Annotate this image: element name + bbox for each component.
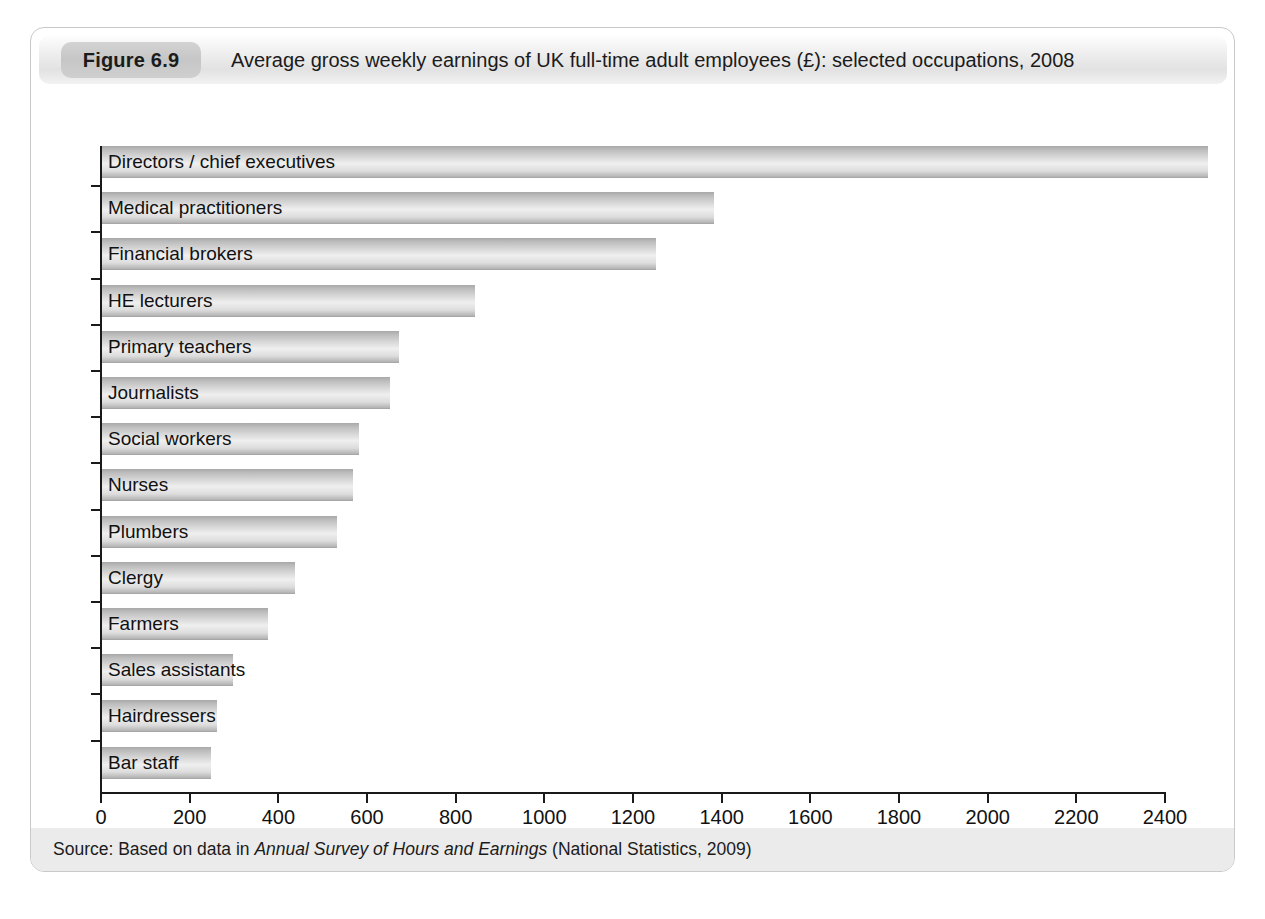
x-axis-tick (100, 792, 102, 803)
y-axis-tick (91, 740, 101, 742)
y-axis-tick (91, 555, 101, 557)
y-axis-tick (91, 370, 101, 372)
bar-category-label: Financial brokers (108, 238, 253, 270)
x-axis-tick-label: 1200 (611, 806, 656, 829)
y-axis-tick (91, 278, 101, 280)
bar-category-label: Plumbers (108, 516, 188, 548)
x-axis-tick-label: 1600 (788, 806, 833, 829)
y-axis-tick (91, 185, 101, 187)
bar-category-label: Hairdressers (108, 700, 216, 732)
x-axis-tick (632, 792, 634, 803)
bar-category-label: HE lecturers (108, 285, 213, 317)
y-axis-tick (91, 647, 101, 649)
bar-row[interactable]: Clergy (100, 562, 295, 594)
bar-row[interactable]: Plumbers (100, 516, 337, 548)
bar-category-label: Primary teachers (108, 331, 252, 363)
x-axis-tick-label: 1800 (877, 806, 922, 829)
bar-category-label: Bar staff (108, 747, 178, 779)
figure-number-badge: Figure 6.9 (61, 42, 201, 78)
x-axis-tick (987, 792, 989, 803)
bar-row[interactable]: Medical practitioners (100, 192, 714, 224)
x-axis-tick (1075, 792, 1077, 803)
figure-header: Figure 6.9 Average gross weekly earnings… (39, 36, 1227, 84)
bar-category-label: Sales assistants (108, 654, 245, 686)
bar-row[interactable]: Social workers (100, 423, 359, 455)
bar-category-label: Nurses (108, 469, 168, 501)
bar-row[interactable]: Journalists (100, 377, 390, 409)
bar-row[interactable]: Directors / chief executives (100, 146, 1208, 178)
x-axis-tick (898, 792, 900, 803)
source-publication-title: Annual Survey of Hours and Earnings (254, 839, 547, 859)
bar-category-label: Directors / chief executives (108, 146, 335, 178)
bar-row[interactable]: Financial brokers (100, 238, 656, 270)
source-suffix: (National Statistics, 2009) (547, 839, 751, 859)
y-axis-tick (91, 462, 101, 464)
bars-layer: Directors / chief executivesMedical prac… (39, 90, 1227, 830)
bar-category-label: Journalists (108, 377, 199, 409)
x-axis-tick-label: 600 (350, 806, 383, 829)
bar-row[interactable]: Sales assistants (100, 654, 233, 686)
figure-title: Average gross weekly earnings of UK full… (231, 49, 1074, 72)
bar-category-label: Farmers (108, 608, 179, 640)
x-axis-tick-label: 2400 (1143, 806, 1188, 829)
x-axis-tick (1164, 792, 1166, 803)
y-axis-tick (91, 693, 101, 695)
x-axis-tick-label: 1400 (699, 806, 744, 829)
bar-category-label: Social workers (108, 423, 232, 455)
bar-category-label: Medical practitioners (108, 192, 282, 224)
x-axis-tick-label: 1000 (522, 806, 567, 829)
y-axis-tick (91, 231, 101, 233)
bar-row[interactable]: Hairdressers (100, 700, 217, 732)
x-axis-tick-label: 400 (262, 806, 295, 829)
bar-category-label: Clergy (108, 562, 163, 594)
y-axis-tick (91, 416, 101, 418)
x-axis-tick (455, 792, 457, 803)
figure-source-footer: Source: Based on data in Annual Survey o… (31, 828, 1234, 871)
x-axis-tick (189, 792, 191, 803)
x-axis-tick-label: 800 (439, 806, 472, 829)
x-axis-tick (543, 792, 545, 803)
y-axis-tick (91, 509, 101, 511)
x-axis-tick-label: 0 (95, 806, 106, 829)
x-axis-tick (277, 792, 279, 803)
bar-row[interactable]: Bar staff (100, 747, 211, 779)
bar-row[interactable]: Farmers (100, 608, 268, 640)
x-axis-tick (721, 792, 723, 803)
source-note: Source: Based on data in Annual Survey o… (53, 839, 751, 860)
x-axis-tick-label: 200 (173, 806, 206, 829)
x-axis-tick-label: 2000 (965, 806, 1010, 829)
y-axis-tick (91, 601, 101, 603)
x-axis-tick (809, 792, 811, 803)
bar-row[interactable]: Primary teachers (100, 331, 399, 363)
bar-row[interactable]: Nurses (100, 469, 353, 501)
x-axis-tick (366, 792, 368, 803)
source-prefix: Source: Based on data in (53, 839, 254, 859)
x-axis-tick-label: 2200 (1054, 806, 1099, 829)
chart-plot-area: Directors / chief executivesMedical prac… (39, 90, 1227, 830)
y-axis-line (100, 146, 102, 793)
figure-container: Figure 6.9 Average gross weekly earnings… (30, 27, 1235, 872)
y-axis-tick (91, 324, 101, 326)
bar-row[interactable]: HE lecturers (100, 285, 475, 317)
